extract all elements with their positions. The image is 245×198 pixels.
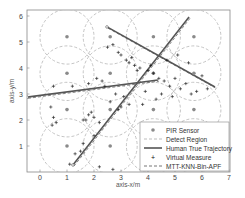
pir-sensor-icon (65, 108, 69, 112)
chart: 01234567 123456 axis-x/m axis-y/m PIR Se… (0, 0, 245, 198)
y-axis-label: axis-y/m (8, 79, 16, 103)
x-tick-label: 3 (119, 174, 123, 181)
pir-sensor-icon (108, 71, 112, 75)
pir-sensor-icon (192, 35, 196, 39)
pir-sensor-icon (192, 108, 196, 112)
pir-sensor-icon (192, 71, 196, 75)
legend: PIR Sensor Detect Region Human True Traj… (140, 122, 233, 171)
legend-sensor: PIR Sensor (166, 127, 200, 134)
x-tick-label: 0 (38, 174, 42, 181)
legend-apf: MTT-KNN-Bin-APF (166, 163, 221, 170)
pir-sensor-icon (65, 71, 69, 75)
x-tick-label: 5 (173, 174, 177, 181)
pir-sensor-icon (108, 35, 112, 39)
y-tick-label: 1 (19, 143, 23, 150)
legend-truth: Human True Trajectory (166, 145, 233, 153)
y-tick-label: 4 (19, 65, 23, 72)
pir-sensor-icon (108, 144, 112, 148)
x-tick-label: 4 (146, 174, 150, 181)
pir-sensor-icon (65, 35, 69, 39)
y-tick-label: 2 (19, 117, 23, 124)
legend-region: Detect Region (166, 136, 208, 144)
plus-marker-icon: + (151, 154, 155, 161)
pir-sensor-icon (108, 108, 112, 112)
pir-sensor-icon (152, 108, 156, 112)
legend-virtual: Virtual Measure (166, 154, 212, 161)
sensor-marker-icon (151, 128, 155, 132)
x-axis-label: axis-x/m (116, 181, 140, 188)
pir-sensor-icon (152, 35, 156, 39)
x-tick-label: 6 (200, 174, 204, 181)
y-tick-label: 5 (19, 39, 23, 46)
x-tick-label: 2 (92, 174, 96, 181)
y-tick-label: 3 (19, 91, 23, 98)
x-tick-label: 1 (65, 174, 69, 181)
y-tick-label: 6 (19, 13, 23, 20)
pir-sensor-icon (65, 144, 69, 148)
x-tick-label: 7 (227, 174, 231, 181)
